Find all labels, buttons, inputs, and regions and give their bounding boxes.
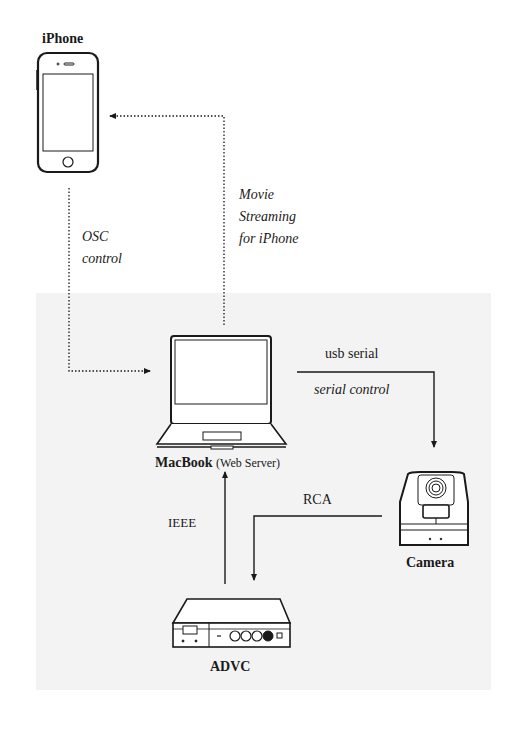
advc-label: ADVC <box>210 660 250 674</box>
osc-control-edge <box>69 188 150 371</box>
advc-icon <box>173 599 290 647</box>
macbook-name: MacBook <box>155 455 213 470</box>
movie-streaming-edge <box>110 116 224 325</box>
osc-label-line1: OSC <box>82 230 108 244</box>
movie-label-line1: Movie <box>239 188 274 202</box>
osc-label-line2: control <box>82 252 122 266</box>
rca-label: RCA <box>303 493 332 507</box>
movie-label-line3: for iPhone <box>239 232 299 246</box>
iphone-label: iPhone <box>42 32 83 46</box>
macbook-label: MacBook (Web Server) <box>155 456 280 470</box>
serial-control-label: serial control <box>314 383 389 397</box>
movie-label-line2: Streaming <box>239 210 296 224</box>
ieee-label: IEEE <box>168 516 196 529</box>
camera-label: Camera <box>406 556 454 570</box>
rca-edge <box>254 516 382 580</box>
macbook-icon <box>157 336 286 449</box>
diagram-canvas <box>0 0 531 731</box>
camera-icon <box>400 472 468 545</box>
usb-serial-label: usb serial <box>325 347 378 361</box>
macbook-sublabel: (Web Server) <box>216 456 280 470</box>
iphone-icon <box>37 53 98 172</box>
